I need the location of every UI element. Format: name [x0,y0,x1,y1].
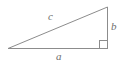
triangle-drawing [0,0,125,66]
vertical-leg-label: b [111,21,117,32]
horizontal-leg-label: a [56,51,62,62]
right-triangle-figure: c b a [0,0,125,66]
hypotenuse-label: c [48,11,53,22]
hypotenuse-line [8,7,108,49]
right-angle-marker [100,41,108,49]
